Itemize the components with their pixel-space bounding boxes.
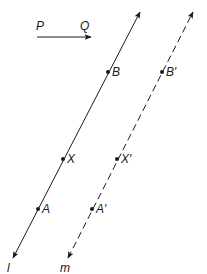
point-x-prime-label: X′ bbox=[120, 152, 132, 166]
line-m-label: m bbox=[60, 261, 70, 274]
vector-end-label: Q bbox=[80, 19, 89, 33]
line-l-label: l bbox=[7, 261, 10, 274]
line-l bbox=[13, 12, 140, 258]
point-b bbox=[106, 70, 110, 74]
point-x-label: X bbox=[66, 152, 76, 166]
line-m bbox=[68, 12, 193, 258]
point-x bbox=[61, 157, 65, 161]
point-a-prime bbox=[90, 207, 94, 211]
translation-diagram: P Q l m B X A B′ X′ A′ bbox=[0, 0, 207, 274]
point-b-label: B bbox=[112, 65, 120, 79]
point-a bbox=[36, 207, 40, 211]
vector-start-label: P bbox=[36, 19, 44, 33]
point-b-prime-label: B′ bbox=[166, 65, 177, 79]
point-a-label: A bbox=[41, 202, 50, 216]
point-b-prime bbox=[160, 70, 164, 74]
point-x-prime bbox=[115, 157, 119, 161]
point-a-prime-label: A′ bbox=[95, 202, 107, 216]
